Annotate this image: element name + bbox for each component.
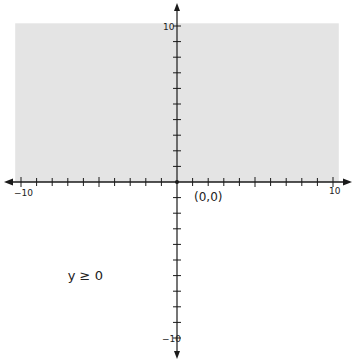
y-max-label: 10: [163, 22, 175, 32]
x-min-label: −10: [14, 188, 33, 198]
origin-label: (0,0): [194, 190, 222, 204]
inequality-graph: −10 10 10 −10 (0,0) y ≥ 0: [0, 0, 358, 362]
inequality-label: y ≥ 0: [68, 268, 103, 283]
y-min-label: −10: [162, 334, 181, 344]
x-max-label: 10: [329, 186, 341, 196]
origin-point: [175, 180, 179, 184]
